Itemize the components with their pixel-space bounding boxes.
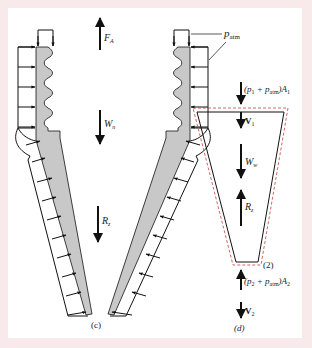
left-top-pressure — [38, 30, 53, 46]
right-top-pressure — [174, 30, 189, 46]
inlet-velocity-label: V1 — [245, 116, 255, 127]
left-nozzle-wall — [36, 47, 92, 315]
outlet-force-label: (p2 + patm)A2 — [244, 276, 290, 287]
nozzle-free-body-diagram: FA Wn Rz patm (c) (p1 + patm)A1 V1 Ww Rz… — [0, 0, 312, 348]
caption-d: (d) — [234, 323, 245, 333]
caption-c: (c) — [91, 320, 101, 330]
panel-c-diagram — [16, 18, 226, 316]
section-2-label: (2) — [263, 260, 274, 270]
control-volume-outline — [193, 108, 288, 265]
nozzle-weight-label: Wn — [104, 118, 115, 130]
right-nozzle-wall — [108, 47, 190, 315]
patm-label: patm — [223, 27, 241, 41]
reaction-label-d: Rz — [244, 201, 254, 213]
inlet-force-label: (p1 + patm)A1 — [244, 84, 290, 95]
water-weight-label: Ww — [245, 156, 257, 168]
outlet-velocity-label: V2 — [245, 306, 255, 317]
anchor-force-label: FA — [103, 32, 114, 44]
reaction-label-c: Rz — [101, 215, 111, 227]
